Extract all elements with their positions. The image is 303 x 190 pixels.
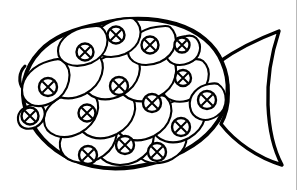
- scale-mark-ventral-2: [116, 136, 134, 154]
- scale-mark-cheek: [22, 108, 39, 125]
- scale-mark-dorsal-2: [108, 27, 125, 44]
- scale-mark-ventral-1: [79, 146, 97, 164]
- scale-mark-dorsal-1: [77, 44, 94, 61]
- scale-mark-lower-1: [79, 105, 96, 122]
- scale-mark-lower-4: [172, 118, 190, 136]
- scale-mark-mid-3: [143, 94, 161, 112]
- scale-mark-dorsal-4: [175, 38, 190, 53]
- scale-mark-dorsal-3: [142, 37, 159, 54]
- scale-mark-ventral-3: [148, 143, 166, 161]
- coloring-page-canvas: Black and white outline drawing of a fis…: [0, 0, 303, 190]
- scale-mark-mid-2: [110, 77, 128, 95]
- scale-mark-mid-4: [175, 70, 191, 86]
- scale-mark-head-upper: [39, 78, 57, 96]
- scale-mark-caudal: [198, 91, 216, 109]
- fish-line-art: Black and white outline drawing of a fis…: [0, 0, 303, 190]
